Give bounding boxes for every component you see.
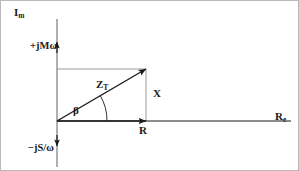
imaginary-axis-label: Im (14, 7, 25, 19)
phasor-diagram-figure: Im +jMω −jS/ω Re ZT X R β (0, 0, 299, 171)
impedance-vector-label-sub: T (103, 83, 108, 92)
imaginary-axis-label-sub: m (18, 11, 24, 20)
real-axis-label: Re (275, 111, 286, 123)
real-axis-label-sub: e (283, 115, 286, 124)
impedance-vector-label: ZT (96, 79, 108, 91)
resistance-label: R (139, 125, 147, 136)
reactance-label: X (153, 88, 161, 99)
phase-angle-arc (100, 95, 107, 121)
real-axis-label-main: R (275, 110, 283, 122)
phase-angle-label: β (73, 105, 79, 116)
positive-imaginary-tick-label: +jMω (30, 41, 57, 52)
negative-imaginary-tick-label: −jS/ω (28, 143, 54, 154)
impedance-vector (57, 69, 146, 121)
